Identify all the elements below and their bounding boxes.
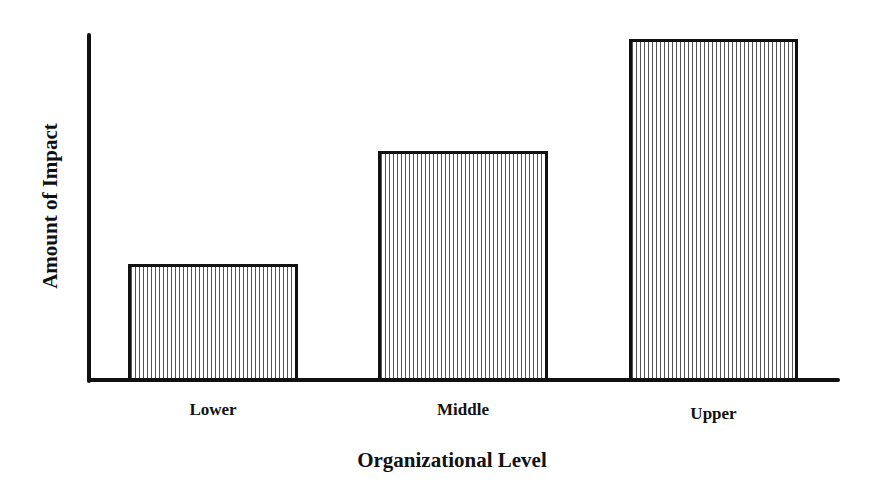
bar-chart: Amount of Impact Lower Middle Upper Orga…: [0, 0, 874, 498]
x-tick-label-middle: Middle: [378, 400, 548, 420]
x-axis-title: Organizational Level: [0, 448, 874, 473]
y-axis-title: Amount of Impact: [38, 123, 63, 289]
x-tick-label-lower: Lower: [128, 400, 298, 420]
x-axis-line: [87, 378, 840, 382]
x-tick-label-upper: Upper: [629, 404, 798, 424]
bar-lower: [128, 264, 298, 380]
bar-upper: [629, 39, 798, 380]
y-axis-line: [87, 33, 91, 383]
bar-middle: [378, 151, 548, 380]
